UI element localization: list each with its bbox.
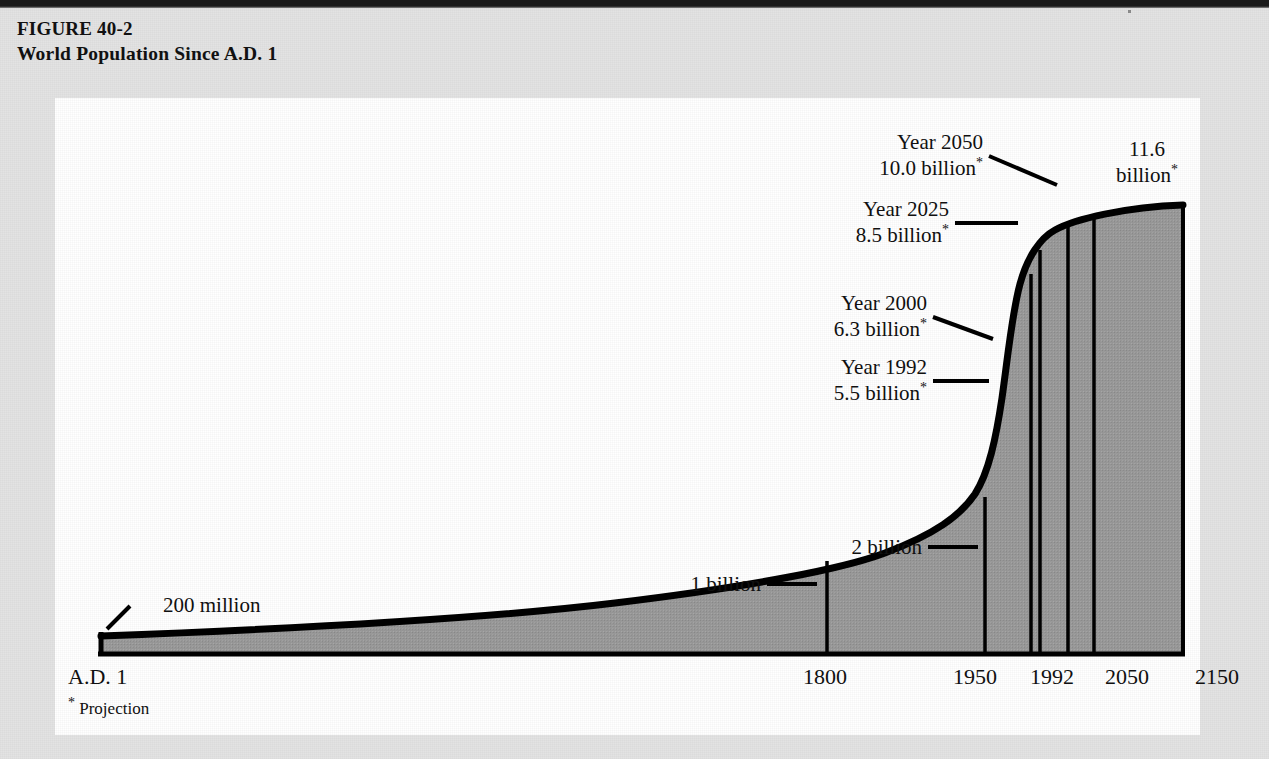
population-area-chart bbox=[55, 98, 1200, 735]
annotation-year-1992-year: Year 1992 bbox=[685, 354, 927, 380]
leader-year-2050 bbox=[989, 156, 1057, 185]
leader-year-2000 bbox=[933, 317, 993, 339]
page-title: World Population Since A.D. 1 bbox=[17, 41, 277, 66]
x-tick-label-1992: 1992 bbox=[1030, 664, 1074, 690]
x-tick-label-2050: 2050 bbox=[1105, 664, 1149, 690]
annotation-year-1992: Year 1992 5.5 billion* bbox=[685, 354, 927, 406]
annotation-2-billion: 2 billion bbox=[810, 534, 922, 560]
annotation-year-2025-value: 8.5 billion* bbox=[707, 222, 949, 248]
projection-marker-icon: * bbox=[1171, 162, 1178, 177]
annotation-year-2000-value: 6.3 billion* bbox=[685, 316, 927, 342]
x-tick-label-ad1: A.D. 1 bbox=[68, 664, 127, 690]
annotation-year-2000-year: Year 2000 bbox=[685, 290, 927, 316]
figure-panel: 200 million 1 billion 2 billion Year 199… bbox=[55, 98, 1200, 735]
asterisk-icon: * bbox=[68, 695, 75, 710]
leader-200-million bbox=[107, 606, 130, 629]
chart-svg bbox=[55, 98, 1200, 735]
x-tick-label-1950: 1950 bbox=[953, 664, 997, 690]
annotation-year-2025-year: Year 2025 bbox=[707, 196, 949, 222]
annotation-peak-11-6-billion: 11.6 billion* bbox=[1099, 136, 1195, 188]
annotation-year-2000: Year 2000 6.3 billion* bbox=[685, 290, 927, 342]
x-tick-label-1800: 1800 bbox=[803, 664, 847, 690]
annotation-peak-unit: billion* bbox=[1099, 162, 1195, 188]
projection-marker-icon: * bbox=[942, 222, 949, 237]
annotation-year-1992-value: 5.5 billion* bbox=[685, 380, 927, 406]
scan-artifact-speck bbox=[1128, 10, 1131, 13]
figure-number: FIGURE 40-2 bbox=[17, 16, 277, 41]
projection-marker-icon: * bbox=[920, 380, 927, 395]
annotation-200-million: 200 million bbox=[163, 592, 260, 618]
annotation-year-2050: Year 2050 10.0 billion* bbox=[741, 129, 983, 181]
annotation-year-2050-value: 10.0 billion* bbox=[741, 155, 983, 181]
annotation-year-2025: Year 2025 8.5 billion* bbox=[707, 196, 949, 248]
projection-marker-icon: * bbox=[920, 316, 927, 331]
figure-caption: FIGURE 40-2 World Population Since A.D. … bbox=[17, 16, 277, 66]
footnote-projection: * Projection bbox=[68, 699, 149, 719]
annotation-year-2050-year: Year 2050 bbox=[741, 129, 983, 155]
annotation-1-billion: 1 billion bbox=[649, 571, 761, 597]
projection-marker-icon: * bbox=[976, 155, 983, 170]
x-tick-label-2150: 2150 bbox=[1195, 664, 1239, 690]
annotation-peak-number: 11.6 bbox=[1099, 136, 1195, 162]
scan-artifact-secondary-bar bbox=[0, 6, 1269, 8]
